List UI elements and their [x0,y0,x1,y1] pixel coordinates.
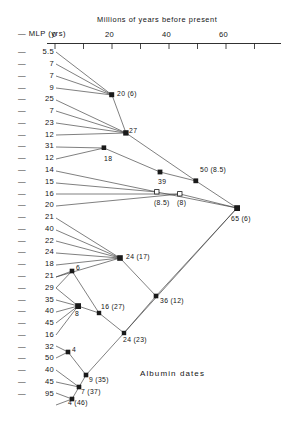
node-marker-27 [123,130,128,135]
node-marker-16-27 [97,311,101,315]
node-marker-4-46 [70,397,75,402]
tree-branches [56,52,237,405]
node-marker-36-12 [154,294,159,299]
node-marker-4 [66,350,71,355]
tree-nodes [66,92,240,401]
node-marker-9-35 [84,373,89,378]
node-marker-20-6 [109,92,114,97]
node-marker-24-17 [117,255,123,261]
node-marker-65-6 [234,205,240,211]
node-marker-6 [70,269,75,274]
axis-ticks [55,44,255,50]
node-marker-39 [158,170,163,175]
node-marker-8-5-open [155,190,159,194]
node-marker-24-23 [122,331,126,335]
node-marker-50-8-5 [193,178,198,183]
node-marker-8-open [178,192,182,196]
node-marker-8 [75,303,81,309]
node-marker-7-37 [77,385,82,390]
albumin-dates-figure: — MLP (yrs) Millions of years before pre… [0,0,281,429]
node-marker-18 [102,145,107,150]
phylogenetic-tree-drawing [0,0,281,429]
